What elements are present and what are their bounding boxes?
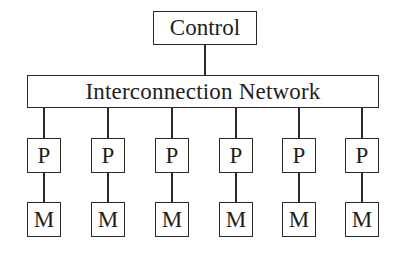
network-processor-connector xyxy=(107,108,109,138)
memory-box: M xyxy=(155,202,189,237)
processor-memory-connector xyxy=(235,173,237,202)
network-processor-connector xyxy=(361,108,363,138)
processor-memory-connector xyxy=(171,173,173,202)
control-box: Control xyxy=(153,11,257,45)
processor-memory-connector xyxy=(298,173,300,202)
processor-memory-connector xyxy=(107,173,109,202)
memory-label: M xyxy=(34,207,54,233)
control-label: Control xyxy=(170,15,240,41)
processor-label: P xyxy=(102,143,115,169)
memory-box: M xyxy=(345,202,379,237)
memory-label: M xyxy=(98,207,118,233)
control-network-connector xyxy=(204,44,206,75)
memory-label: M xyxy=(162,207,182,233)
memory-box: M xyxy=(27,202,61,237)
processor-memory-connector xyxy=(361,173,363,202)
memory-label: M xyxy=(352,207,372,233)
processor-label: P xyxy=(38,143,51,169)
processor-box: P xyxy=(155,138,189,173)
memory-label: M xyxy=(289,207,309,233)
network-processor-connector xyxy=(235,108,237,138)
processor-box: P xyxy=(91,138,125,173)
processor-box: P xyxy=(27,138,61,173)
processor-box: P xyxy=(282,138,316,173)
processor-memory-connector xyxy=(43,173,45,202)
memory-box: M xyxy=(91,202,125,237)
memory-box: M xyxy=(219,202,253,237)
processor-label: P xyxy=(230,143,243,169)
network-processor-connector xyxy=(298,108,300,138)
network-processor-connector xyxy=(171,108,173,138)
network-label: Interconnection Network xyxy=(85,79,320,105)
interconnection-network-box: Interconnection Network xyxy=(27,75,379,108)
processor-label: P xyxy=(356,143,369,169)
network-processor-connector xyxy=(43,108,45,138)
memory-box: M xyxy=(282,202,316,237)
processor-label: P xyxy=(293,143,306,169)
memory-label: M xyxy=(226,207,246,233)
processor-box: P xyxy=(345,138,379,173)
processor-box: P xyxy=(219,138,253,173)
processor-label: P xyxy=(166,143,179,169)
